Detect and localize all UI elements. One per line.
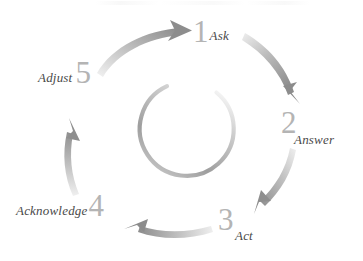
step-word-acknowledge: Acknowledge xyxy=(16,203,88,218)
step-number-3: 3 xyxy=(218,202,234,237)
step-label-ask: 1Ask xyxy=(193,16,229,47)
arrow-adjust-to-ask xyxy=(97,20,192,77)
arrow-act-to-acknowledge xyxy=(124,219,213,238)
diagram-canvas: 1Ask 2Answer 3Act Acknowledge4 Adjust5 xyxy=(0,0,363,261)
step-label-adjust: Adjust5 xyxy=(38,57,91,88)
step-word-ask: Ask xyxy=(210,28,229,43)
step-word-act: Act xyxy=(235,229,253,242)
step-word-answer: Answer xyxy=(294,133,334,146)
inner-ring xyxy=(140,86,234,176)
step-number-5: 5 xyxy=(75,55,91,90)
arrow-acknowledge-to-adjust xyxy=(64,118,80,196)
arrow-answer-to-act xyxy=(254,148,296,214)
arrow-ask-to-answer xyxy=(242,33,300,104)
step-number-1: 1 xyxy=(193,14,209,49)
step-word-adjust: Adjust xyxy=(38,70,72,85)
step-label-answer: 2Answer xyxy=(281,107,334,146)
step-label-acknowledge: Acknowledge4 xyxy=(16,190,104,221)
step-label-act: 3Act xyxy=(218,204,253,242)
step-number-4: 4 xyxy=(89,188,105,223)
